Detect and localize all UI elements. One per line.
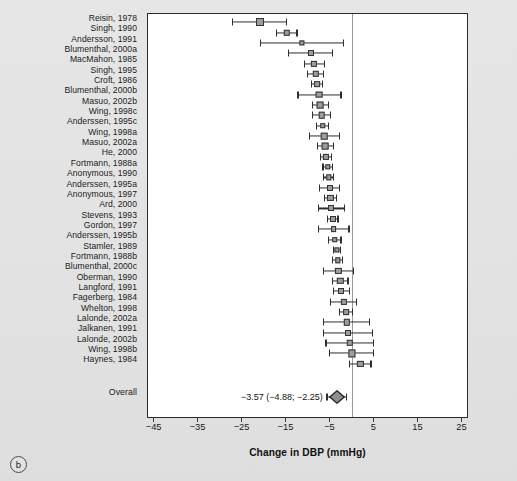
forest-row [148,317,467,327]
ci-cap-lower [318,205,319,212]
overall-diamond [329,390,345,404]
point-estimate-box [348,350,355,357]
study-label: Masuo, 2002b [0,96,141,106]
forest-row [148,338,467,348]
forest-row [148,110,467,120]
study-label: Lalonde, 2002a [0,313,141,323]
point-estimate-box [331,226,337,232]
point-estimate-box [337,278,343,284]
point-estimate-box [256,18,264,26]
x-axis-title: Change in DBP (mmHg) [147,447,468,458]
ci-cap-upper [356,298,357,305]
forest-plot-figure: Reisin, 1978Singh, 1990Andersson, 1991Bl… [0,0,517,481]
study-label: Wing, 1998c [0,106,141,116]
ci-cap-upper [328,122,329,129]
forest-row [148,131,467,141]
ci-cap-lower [332,257,333,264]
forest-row [148,69,467,79]
x-axis-tick-label: −25 [234,422,250,432]
point-estimate-box [325,164,330,169]
ci-cap-lower [323,319,324,326]
forest-row [148,265,467,275]
forest-row [148,245,467,255]
ci-cap-upper [340,91,341,98]
study-label: Lalonde, 2002b [0,334,141,344]
ci-cap-lower [329,350,330,357]
study-label: Blumenthal, 2000a [0,44,141,54]
ci-cap-upper [370,360,371,367]
study-label: Stevens, 1993 [0,210,141,220]
point-estimate-box [308,50,314,56]
ci-cap-lower [327,215,328,222]
point-estimate-box [332,237,338,243]
study-label: Haynes, 1984 [0,354,141,364]
ci-cap-lower [288,50,289,57]
study-label: Fagerberg, 1984 [0,292,141,302]
point-estimate-box [299,40,304,45]
ci-cap-upper [349,288,350,295]
forest-row [148,79,467,89]
study-label: Croft, 1986 [0,75,141,85]
study-label: Jalkanen, 1991 [0,323,141,333]
ci-cap-lower [276,29,277,36]
point-estimate-box [320,123,326,129]
point-estimate-box [335,258,340,263]
study-label: Wing, 1998b [0,344,141,354]
forest-row [148,152,467,162]
forest-row [148,38,467,48]
ci-cap-lower [260,39,261,46]
point-estimate-box [312,71,318,77]
forest-row [148,296,467,306]
ci-cap-lower [323,267,324,274]
ci-cap-upper [328,101,329,108]
ci-cap-lower [325,340,326,347]
ci-cap-lower [339,308,340,315]
point-estimate-box [318,112,325,119]
ci-cap-lower [232,19,233,26]
ci-cap-upper [323,70,324,77]
overall-ci-cap-lower [326,393,327,400]
study-label: Stamler, 1989 [0,241,141,251]
ci-cap-lower [297,91,298,98]
x-axis-tick-label: 5 [371,422,376,432]
study-label: Gordon, 1997 [0,220,141,230]
overall-label: Overall [0,387,141,397]
ci-cap-lower [304,60,305,67]
x-axis-tick-label: −5 [324,422,335,432]
ci-cap-lower [323,329,324,336]
study-label: Anderssen, 1995a [0,179,141,189]
overall-row: −3.57 (−4.88; −2.25) [148,392,467,402]
point-estimate-box [327,195,333,201]
ci-cap-lower [349,360,350,367]
ci-cap-upper [340,246,341,253]
panel-letter-badge: b [10,456,27,473]
point-estimate-box [311,60,317,66]
study-label: Blumenthal, 2000b [0,85,141,95]
point-estimate-box [347,340,353,346]
ci-cap-upper [339,184,340,191]
point-estimate-box [338,288,344,294]
forest-row [148,183,467,193]
forest-row [148,48,467,58]
forest-row [148,203,467,213]
ci-cap-upper [337,215,338,222]
ci-cap-lower [317,143,318,150]
point-estimate-box [344,319,350,325]
forest-row [148,193,467,203]
forest-row [148,100,467,110]
point-estimate-box [357,361,363,367]
point-estimate-box [283,29,289,35]
forest-row [148,17,467,27]
ci-cap-lower [328,236,329,243]
x-axis-tick-label: 15 [412,422,422,432]
ci-cap-upper [333,143,334,150]
study-label: Wing, 1998a [0,127,141,137]
forest-row [148,224,467,234]
study-label: Anderssen, 1995b [0,230,141,240]
ci-cap-upper [348,226,349,233]
study-label: Masuo, 2002a [0,137,141,147]
forest-row [148,359,467,369]
ci-cap-lower [311,81,312,88]
point-estimate-box [334,247,339,252]
forest-row [148,276,467,286]
